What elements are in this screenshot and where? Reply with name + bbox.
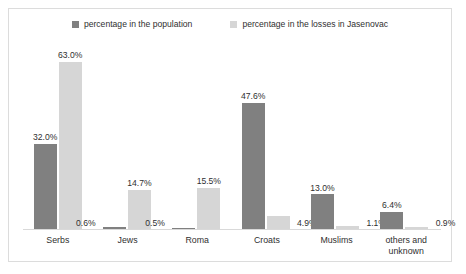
bar-group: 0.5%15.5% (162, 43, 231, 229)
bar-value-label: 0.9% (436, 219, 456, 228)
category-label: Muslims (302, 235, 372, 257)
bar-value-label: 0.6% (76, 219, 96, 228)
bar[interactable] (59, 62, 82, 229)
bar-value-label: 32.0% (33, 133, 57, 142)
legend-swatch-dark-square (72, 21, 79, 28)
legend-swatch-light-square (230, 21, 237, 28)
legend-entry-losses[interactable]: percentage in the losses in Jasenovac (230, 20, 388, 29)
bar-slot: 0.6% (103, 43, 126, 229)
bar-slot: 47.6% (242, 43, 265, 229)
bar-group: 0.6%14.7% (92, 43, 161, 229)
bar[interactable] (311, 194, 334, 229)
legend-label-losses: percentage in the losses in Jasenovac (242, 20, 388, 29)
bar-group: 13.0%1.1% (300, 43, 369, 229)
bar-slot: 1.1% (336, 43, 359, 229)
plot-area: 32.0%63.0%0.6%14.7%0.5%15.5%47.6%4.9%13.… (23, 43, 439, 229)
category-axis-labels: SerbsJewsRomaCroatsMuslimsothers andunkn… (23, 235, 441, 257)
bar-group: 6.4%0.9% (370, 43, 439, 229)
category-label: Serbs (23, 235, 93, 257)
bar-value-label: 13.0% (310, 184, 334, 193)
legend-label-population: percentage in the population (84, 20, 192, 29)
bar-value-label: 14.7% (127, 179, 151, 188)
category-label: Croats (232, 235, 302, 257)
legend-entry-population[interactable]: percentage in the population (72, 20, 192, 29)
bar-slot: 13.0% (311, 43, 334, 229)
bar[interactable] (242, 103, 265, 229)
bar-slot: 4.9% (267, 43, 290, 229)
bar-slot: 63.0% (59, 43, 82, 229)
bar-group: 47.6%4.9% (231, 43, 300, 229)
bar[interactable] (34, 144, 57, 229)
bar-groups: 32.0%63.0%0.6%14.7%0.5%15.5%47.6%4.9%13.… (23, 43, 439, 229)
bar-slot: 6.4% (380, 43, 403, 229)
bar-slot: 15.5% (197, 43, 220, 229)
category-axis-line (23, 229, 441, 230)
bar-value-label: 63.0% (58, 51, 82, 60)
bar-group: 32.0%63.0% (23, 43, 92, 229)
bar-value-label: 0.5% (145, 219, 165, 228)
bar-value-label: 47.6% (241, 92, 265, 101)
bar[interactable] (197, 188, 220, 229)
bar-value-label: 15.5% (197, 177, 221, 186)
bar-slot: 14.7% (128, 43, 151, 229)
category-label: others andunknown (371, 235, 441, 257)
chart-legend: percentage in the population percentage … (9, 20, 451, 29)
bar-slot: 0.9% (405, 43, 428, 229)
bar[interactable] (380, 212, 403, 229)
bar[interactable] (267, 216, 290, 229)
bar-value-label: 6.4% (382, 201, 402, 210)
category-label: Jews (93, 235, 163, 257)
bar-slot: 0.5% (172, 43, 195, 229)
bar-slot: 32.0% (34, 43, 57, 229)
category-label: Roma (162, 235, 232, 257)
chart-frame: percentage in the population percentage … (8, 8, 452, 262)
